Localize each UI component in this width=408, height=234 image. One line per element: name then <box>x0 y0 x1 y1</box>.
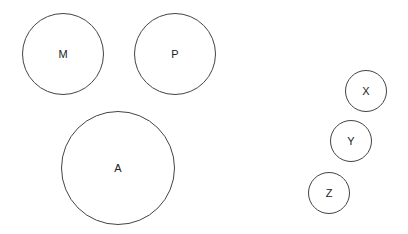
node-label: X <box>362 86 369 97</box>
node-p[interactable]: P <box>134 13 216 95</box>
node-label: M <box>58 49 67 60</box>
node-label: Y <box>347 136 354 147</box>
node-label: P <box>171 49 178 60</box>
node-label: Z <box>326 188 333 199</box>
node-m[interactable]: M <box>22 13 104 95</box>
node-x[interactable]: X <box>345 70 387 112</box>
node-label: A <box>114 163 121 174</box>
node-z[interactable]: Z <box>308 172 350 214</box>
node-y[interactable]: Y <box>330 120 372 162</box>
node-a[interactable]: A <box>61 111 175 225</box>
diagram-canvas: M P A X Y Z <box>0 0 408 234</box>
